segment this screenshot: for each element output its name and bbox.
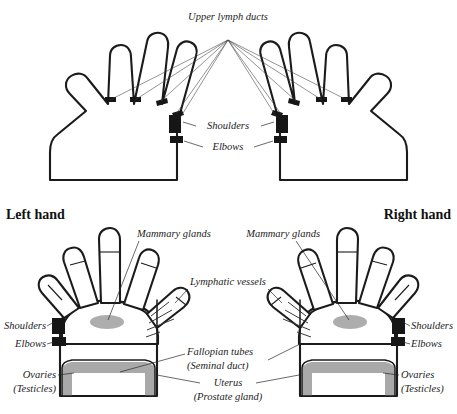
lower-right-hand <box>268 228 419 396</box>
ovaries-right-label-line2: (Testicles) <box>401 383 444 395</box>
upper-shoulders-leader-left <box>183 122 196 126</box>
upper-left-hand <box>50 33 197 180</box>
lower-hands-panel: Left hand Right hand <box>4 207 453 403</box>
upper-elbows-leader-right <box>254 141 273 147</box>
ovaries-left-label-line1: Ovaries <box>23 369 56 380</box>
upper-elbows-label: Elbows <box>212 141 244 152</box>
uterus-label-line2: (Prostate gland) <box>194 391 263 403</box>
ovaries-left-label-line2: (Testicles) <box>13 383 56 395</box>
upper-right-hand-outline <box>260 33 407 180</box>
lower-right-middle-finger <box>337 228 358 303</box>
fallopian-tubes-label-line2: (Seminal duct) <box>187 360 249 372</box>
upper-right-elbow-mark <box>274 136 287 143</box>
upper-left-hand-outline <box>50 33 197 180</box>
uterus-leader-right <box>256 375 299 383</box>
right-hand-title: Right hand <box>384 207 452 222</box>
lower-left-shoulder-mark <box>52 318 65 334</box>
fallopian-tubes-leader-right <box>268 344 300 360</box>
upper-shoulders-label: Shoulders <box>207 120 249 131</box>
lower-left-mammary-zone <box>90 315 124 329</box>
lower-left-ring-finger <box>124 249 159 310</box>
shoulders-right-label: Shoulders <box>411 320 453 331</box>
hand-reflexology-figure: Upper lymph ducts Shoulders Elbows Left … <box>0 0 457 414</box>
fallopian-tubes-label-line1: Fallopian tubes <box>186 346 253 357</box>
uterus-label-line1: Uterus <box>214 377 243 388</box>
upper-left-elbow-mark <box>170 136 183 143</box>
uterus-leader-left <box>157 375 200 383</box>
lower-right-shoulder-mark <box>392 318 405 334</box>
upper-right-hand <box>260 33 407 180</box>
upper-elbows-leader-left <box>184 141 203 147</box>
lymphatic-vessels-label: Lymphatic vessels <box>189 276 266 287</box>
mammary-glands-right-label: Mammary glands <box>245 228 320 239</box>
elbows-right-label: Elbows <box>410 338 442 349</box>
upper-right-shoulder-mark <box>276 115 288 133</box>
elbows-left-label: Elbows <box>14 338 46 349</box>
upper-lymph-ducts-panel: Upper lymph ducts Shoulders Elbows <box>50 11 407 180</box>
lower-right-mammary-zone <box>333 315 367 329</box>
upper-left-shoulder-mark <box>169 115 181 133</box>
lower-right-elbow-mark <box>391 337 405 346</box>
upper-shoulders-leader-right <box>261 122 274 126</box>
ovaries-right-label-line1: Ovaries <box>401 369 434 380</box>
shoulders-left-label: Shoulders <box>4 320 46 331</box>
lower-left-little-finger <box>147 288 189 328</box>
lower-left-hand <box>39 228 190 396</box>
lower-left-middle-finger <box>99 228 120 303</box>
lower-right-ring-finger <box>298 249 333 310</box>
left-hand-title: Left hand <box>6 207 65 222</box>
mammary-glands-left-label: Mammary glands <box>136 228 211 239</box>
lower-left-elbow-mark <box>52 337 66 346</box>
upper-lymph-ducts-label: Upper lymph ducts <box>188 11 268 22</box>
lower-right-little-finger <box>268 288 310 328</box>
